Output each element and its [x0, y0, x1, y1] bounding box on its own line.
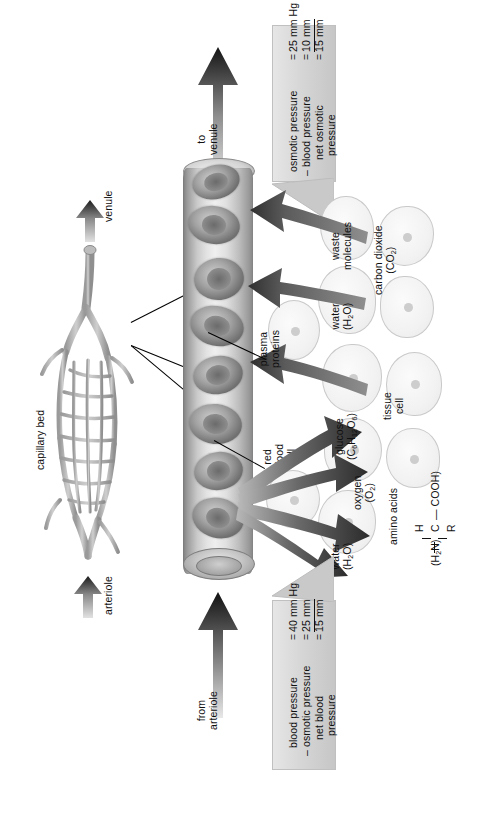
- aa-bond-amine: [434, 542, 435, 553]
- arterial-row1-label: blood pressure: [288, 677, 300, 748]
- to-venule-arrow: [183, 45, 253, 175]
- amino-acid-structure: H C R (H2N) — COOH): [404, 470, 456, 566]
- carbon-dioxide-label: carbon dioxide (CO2): [373, 225, 397, 295]
- arterial-row2-label: – osmotic pressure: [301, 665, 313, 756]
- glucose-label: glucose (C6H12O6): [334, 413, 358, 460]
- amino-acids-label: amino acids: [388, 488, 400, 545]
- tissue-cell-label: tissue cell: [382, 392, 406, 420]
- oxygen-formula: (O2): [364, 476, 377, 510]
- from-arteriole-label: from arteriole: [196, 691, 220, 730]
- arterial-row1-value: 40 mm Hg: [288, 583, 300, 632]
- aa-bond-h: [422, 538, 431, 539]
- to-venule-label: to venule: [196, 123, 220, 155]
- venous-row1-label: osmotic pressure: [288, 90, 300, 172]
- water-in-formula: (H2O): [342, 303, 355, 330]
- oxygen-label: oxygen (O2): [352, 476, 376, 510]
- waste-molecules-label: waste molecules: [330, 222, 354, 270]
- capillary-bed-illustration: [40, 200, 150, 620]
- aa-left-amine: (H2N): [430, 539, 443, 566]
- figure-canvas: to venule osmotic pressure = 25 mm Hg – …: [0, 0, 477, 814]
- arterial-row3-eq: =: [314, 634, 326, 640]
- aa-bottom-r: R: [446, 524, 458, 532]
- venous-row1-eq: =: [288, 54, 300, 60]
- venous-row3-label-2: pressure: [326, 114, 338, 156]
- venous-row3-eq: =: [314, 54, 326, 60]
- venous-row3-value: 15 mm: [314, 19, 326, 52]
- arterial-row3-value: 15 mm: [314, 599, 326, 632]
- venous-row2-label: – blood pressure: [301, 96, 313, 176]
- glucose-formula: (C6H12O6): [346, 413, 359, 460]
- aa-right-carboxyl: — COOH): [430, 471, 442, 520]
- arterial-row1-eq: =: [288, 634, 300, 640]
- venule-label: venule: [103, 190, 115, 222]
- water-in-label: water (H2O): [330, 303, 354, 330]
- arterial-banner-arrowhead: [272, 556, 334, 602]
- plasma-proteins-label: plasma proteins: [258, 330, 282, 368]
- arterial-row3-label-2: pressure: [326, 694, 338, 736]
- capillary-bed-label: capillary bed: [35, 410, 47, 470]
- venous-row3-label-1: net osmotic: [314, 105, 326, 160]
- venous-row1-value: 25 mm Hg: [288, 3, 300, 52]
- aa-bond-r: [438, 538, 447, 539]
- aa-center-c: C: [430, 524, 442, 532]
- arterial-row2-eq: =: [301, 634, 313, 640]
- water-out-formula: (H2O): [342, 543, 355, 570]
- aa-top-h: H: [414, 524, 426, 532]
- arteriole-label: arteriole: [103, 576, 115, 615]
- carbon-dioxide-formula: (CO2): [385, 225, 398, 295]
- arterial-row3-label-1: net blood: [314, 696, 326, 740]
- venous-row2-eq: =: [301, 54, 313, 60]
